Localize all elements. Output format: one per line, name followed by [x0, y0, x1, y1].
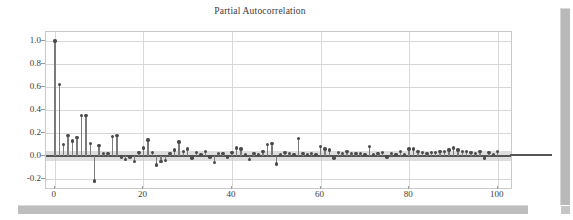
pacf-marker — [71, 139, 74, 142]
pacf-marker — [106, 152, 109, 155]
pacf-marker — [456, 148, 459, 151]
pacf-marker — [270, 142, 273, 145]
chart-title: Partial Autocorrelation — [0, 6, 520, 16]
x-axis-tick-label: 100 — [490, 189, 504, 199]
pacf-marker — [120, 155, 123, 158]
pacf-stem — [271, 143, 272, 156]
pacf-marker — [337, 151, 340, 154]
pacf-stem — [63, 144, 64, 155]
pacf-marker — [438, 150, 441, 153]
gridline-horizontal — [46, 41, 511, 42]
pacf-stem — [178, 142, 179, 156]
horizontal-scrollbar[interactable] — [18, 205, 528, 214]
pacf-marker — [487, 151, 490, 154]
pacf-stem — [98, 146, 99, 156]
pacf-marker — [190, 156, 193, 159]
pacf-marker — [345, 150, 348, 153]
x-axis-tick-mark — [231, 186, 232, 189]
pacf-marker — [177, 140, 180, 143]
pacf-marker — [368, 145, 371, 148]
pacf-marker — [235, 146, 238, 149]
x-axis-tick-label: 20 — [138, 189, 147, 199]
pacf-stem — [298, 139, 299, 156]
pacf-marker — [230, 151, 233, 154]
screenshot-root: Partial Autocorrelation 1.00.80.60.40.20… — [0, 0, 573, 220]
pacf-marker — [155, 163, 158, 166]
pacf-stem — [94, 156, 95, 181]
pacf-marker — [407, 147, 410, 150]
x-axis-tick-mark — [408, 186, 409, 189]
pacf-marker — [164, 159, 167, 162]
pacf-marker — [62, 143, 65, 146]
gridline-horizontal — [46, 64, 511, 65]
pacf-marker — [97, 144, 100, 147]
y-axis-tick-label: 0.0 — [1, 150, 41, 160]
pacf-stem — [81, 116, 82, 156]
pacf-marker — [425, 152, 428, 155]
zero-line-extension — [510, 154, 552, 155]
x-axis-tick-mark — [320, 186, 321, 189]
pacf-marker — [452, 146, 455, 149]
pacf-stem — [76, 138, 77, 156]
pacf-marker — [84, 114, 87, 117]
pacf-stem — [59, 85, 60, 156]
pacf-marker — [430, 151, 433, 154]
pacf-stem — [267, 144, 268, 155]
pacf-marker — [168, 152, 171, 155]
pacf-marker — [239, 147, 242, 150]
pacf-marker — [416, 150, 419, 153]
pacf-marker — [58, 83, 61, 86]
pacf-marker — [151, 151, 154, 154]
pacf-marker — [133, 160, 136, 163]
pacf-stem — [112, 136, 113, 156]
pacf-marker — [461, 150, 464, 153]
pacf-marker — [137, 151, 140, 154]
pacf-marker — [80, 114, 83, 117]
scrollbar-corner — [561, 206, 570, 214]
pacf-stem — [116, 135, 117, 156]
pacf-stem — [72, 141, 73, 156]
y-axis-tick-label: 0.8 — [1, 58, 41, 68]
pacf-marker — [483, 156, 486, 159]
pacf-marker — [252, 152, 255, 155]
pacf-stem — [320, 147, 321, 156]
pacf-marker — [319, 145, 322, 148]
pacf-marker — [328, 148, 331, 151]
x-axis: 020406080100 — [45, 189, 510, 203]
pacf-marker — [376, 152, 379, 155]
pacf-stem — [90, 143, 91, 156]
pacf-stem — [369, 147, 370, 156]
pacf-marker — [93, 179, 96, 182]
pacf-marker — [412, 147, 415, 150]
pacf-marker — [478, 150, 481, 153]
x-axis-tick-label: 80 — [404, 189, 413, 199]
pacf-marker — [399, 150, 402, 153]
pacf-stem — [67, 135, 68, 156]
x-axis-tick-mark — [54, 186, 55, 189]
pacf-stem — [54, 41, 55, 156]
y-axis: 1.00.80.60.40.20.0-0.2 — [0, 31, 41, 187]
pacf-stem — [147, 140, 148, 156]
x-axis-tick-label: 40 — [227, 189, 236, 199]
pacf-marker — [301, 152, 304, 155]
pacf-marker — [447, 148, 450, 151]
pacf-marker — [226, 155, 229, 158]
pacf-marker — [182, 150, 185, 153]
chart-card: Partial Autocorrelation 1.00.80.60.40.20… — [0, 0, 520, 205]
pacf-marker — [354, 152, 357, 155]
y-axis-tick-label: -0.2 — [1, 173, 41, 183]
x-axis-tick-label: 0 — [52, 189, 57, 199]
gridline-horizontal — [46, 179, 511, 180]
pacf-marker — [159, 160, 162, 163]
pacf-marker — [111, 135, 114, 138]
y-axis-tick-label: 1.0 — [1, 35, 41, 45]
pacf-marker — [275, 162, 278, 165]
pacf-marker — [469, 151, 472, 154]
pacf-marker — [213, 161, 216, 164]
vertical-scrollbar[interactable] — [560, 8, 570, 205]
pacf-marker — [385, 155, 388, 158]
pacf-marker — [142, 146, 145, 149]
pacf-marker — [115, 134, 118, 137]
pacf-marker — [323, 147, 326, 150]
pacf-marker — [297, 137, 300, 140]
